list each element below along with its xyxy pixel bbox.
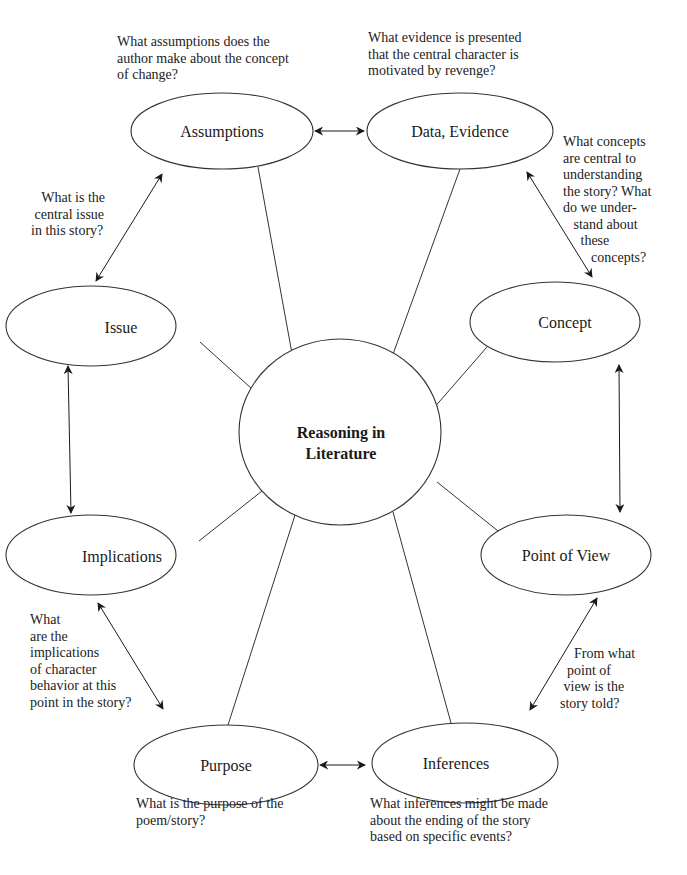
spoke-inferences <box>393 512 451 723</box>
question-data-evidence: What evidence is presented that the cent… <box>368 30 522 80</box>
node-label-implications: Implications <box>82 548 162 566</box>
spoke-data-evidence <box>388 169 460 368</box>
question-assumptions: What assumptions does the author make ab… <box>117 34 289 84</box>
node-label-assumptions: Assumptions <box>180 123 264 141</box>
spoke-implications <box>199 491 262 541</box>
arrow-concept-point-of-view <box>619 365 620 512</box>
question-inferences: What inferences might be made about the … <box>370 796 548 846</box>
spoke-assumptions <box>258 167 295 370</box>
spoke-purpose <box>228 512 296 725</box>
node-label-data-evidence: Data, Evidence <box>411 123 509 140</box>
question-issue: What is the central issue in this story? <box>31 190 105 240</box>
spoke-point-of-view <box>437 482 498 531</box>
reasoning-diagram: Assumptions Data, Evidence Concept Point… <box>0 0 687 875</box>
node-label-concept: Concept <box>538 314 592 332</box>
question-point-of-view: From what point of view is the story tol… <box>560 646 635 712</box>
arrow-issue-assumptions <box>96 174 162 281</box>
question-implications: What are the implications of character b… <box>30 612 132 711</box>
node-label-purpose: Purpose <box>200 757 252 775</box>
question-concept: What concepts are central to understandi… <box>563 134 651 266</box>
question-purpose: What is the purpose of the poem/story? <box>136 796 283 829</box>
node-label-inferences: Inferences <box>423 755 490 772</box>
node-issue <box>6 286 176 366</box>
node-label-issue: Issue <box>105 319 138 336</box>
node-label-point-of-view: Point of View <box>522 547 611 564</box>
arrow-implications-issue <box>68 366 71 513</box>
center-label-line1: Reasoning in <box>297 424 386 442</box>
center-label-line2: Literature <box>306 445 377 462</box>
